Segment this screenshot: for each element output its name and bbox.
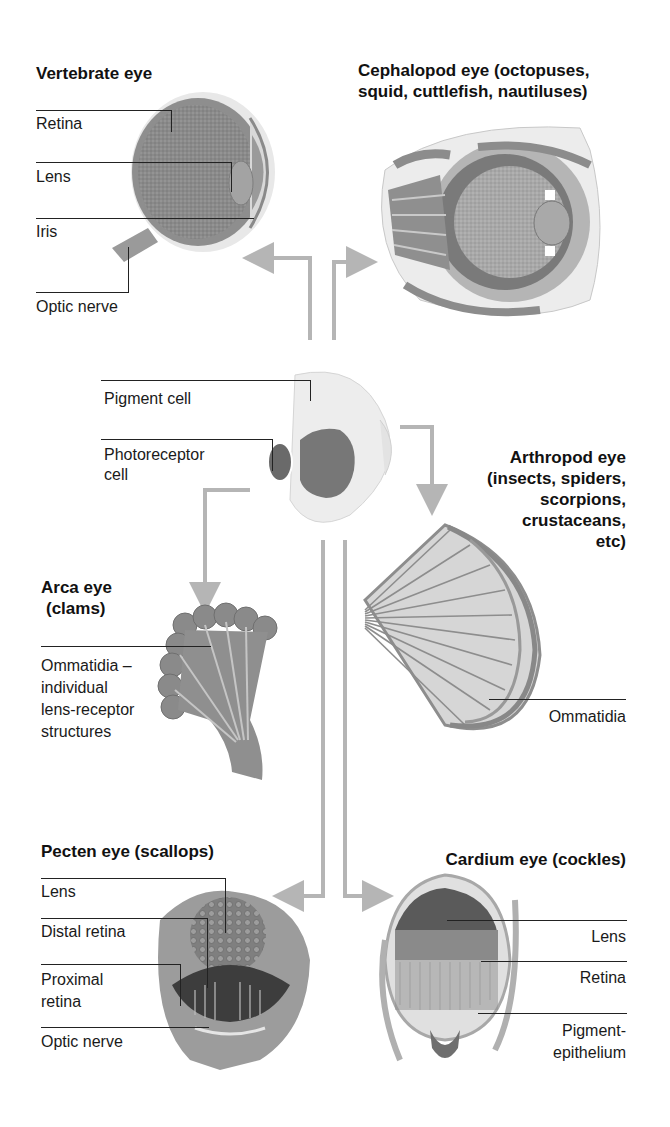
cardium-lens-label: Lens	[591, 927, 626, 947]
pecten-proximal-label: Proximal retina	[41, 969, 103, 1013]
vertebrate-optic-leader	[36, 292, 129, 293]
pecten-distal-leader-v	[207, 918, 208, 988]
arthropod-ommatidia-label: Ommatidia	[549, 707, 626, 727]
vertebrate-iris-label: Iris	[36, 222, 57, 242]
photoreceptor-leader-v	[272, 439, 273, 471]
pecten-proximal-leader-v	[180, 964, 181, 1006]
pigment-cell-label: Pigment cell	[104, 389, 191, 409]
vertebrate-retina-leader-v	[171, 110, 172, 132]
vertebrate-optic-leader-v	[128, 247, 129, 293]
arca-label-line-4: structures	[41, 721, 134, 743]
vertebrate-optic-label: Optic nerve	[36, 297, 118, 317]
arca-title-line-1: Arca eye	[41, 577, 112, 598]
vertebrate-lens-label: Lens	[36, 167, 71, 187]
arca-label-line-1: Ommatidia –	[41, 655, 134, 677]
pecten-lens-leader-v	[225, 878, 226, 933]
photoreceptor-label-line-2: cell	[104, 465, 205, 485]
cardium-retina-label: Retina	[580, 968, 626, 988]
pecten-proximal-line-2: retina	[41, 991, 103, 1013]
arthropod-title-line-1: Arthropod eye	[487, 447, 626, 468]
cephalopod-eye-drawing	[382, 127, 600, 315]
arthropod-title-line-3: scorpions,	[487, 489, 626, 510]
pecten-lens-label: Lens	[41, 882, 76, 902]
photoreceptor-leader	[101, 439, 273, 440]
eye-evolution-illustration	[0, 0, 670, 1127]
vertebrate-lens-leader-v	[231, 162, 232, 192]
cardium-retina-leader	[481, 961, 627, 962]
pecten-distal-label: Distal retina	[41, 922, 125, 942]
pecten-proximal-leader	[41, 964, 181, 965]
arca-eye-drawing	[158, 603, 277, 780]
arca-eye-title: Arca eye (clams)	[41, 577, 112, 619]
arthropod-title-line-4: crustaceans,	[487, 510, 626, 531]
cardium-pigment-leader	[478, 1013, 627, 1014]
cephalopod-eye-title: Cephalopod eye (octopuses, squid, cuttle…	[358, 60, 589, 102]
arca-title-line-2: (clams)	[41, 598, 112, 619]
pecten-distal-leader	[41, 918, 208, 919]
cardium-eye-drawing	[382, 875, 516, 1060]
arca-label-line-3: lens-receptor	[41, 699, 134, 721]
arthropod-eye-title: Arthropod eye (insects, spiders, scorpio…	[487, 447, 626, 552]
cardium-lens-leader	[447, 920, 627, 921]
pecten-lens-leader	[41, 878, 226, 879]
pecten-optic-leader	[41, 1027, 209, 1028]
arthropod-ommatidia-leader	[489, 699, 626, 700]
arthropod-title-line-5: etc)	[487, 531, 626, 552]
cephalopod-title-line-1: Cephalopod eye (octopuses,	[358, 60, 589, 81]
vertebrate-retina-leader	[36, 110, 172, 111]
vertebrate-eye-title: Vertebrate eye	[36, 63, 152, 84]
arca-ommatidia-label: Ommatidia – individual lens-receptor str…	[41, 655, 134, 743]
pecten-eye-title: Pecten eye (scallops)	[41, 841, 214, 862]
pecten-optic-label: Optic nerve	[41, 1032, 123, 1052]
pecten-proximal-line-1: Proximal	[41, 969, 103, 991]
cardium-pigment-line-2: epithelium	[553, 1042, 626, 1064]
vertebrate-eye-drawing	[112, 92, 275, 262]
cardium-pigment-label: Pigment- epithelium	[553, 1020, 626, 1064]
pigment-cell-leader	[101, 380, 311, 381]
photoreceptor-label-line-1: Photoreceptor	[104, 445, 205, 465]
vertebrate-retina-label: Retina	[36, 114, 82, 134]
cardium-eye-title: Cardium eye (cockles)	[446, 849, 626, 870]
arthropod-title-line-2: (insects, spiders,	[487, 468, 626, 489]
cardium-pigment-line-1: Pigment-	[553, 1020, 626, 1042]
primitive-eye-drawing	[268, 372, 391, 522]
pigment-cell-leader-v	[310, 380, 311, 401]
vertebrate-lens-leader	[36, 162, 232, 163]
arca-label-line-2: individual	[41, 677, 134, 699]
photoreceptor-label: Photoreceptor cell	[104, 445, 205, 485]
vertebrate-iris-leader	[36, 218, 254, 219]
arca-ommatidia-leader	[41, 646, 211, 647]
cephalopod-title-line-2: squid, cuttlefish, nautiluses)	[358, 81, 589, 102]
